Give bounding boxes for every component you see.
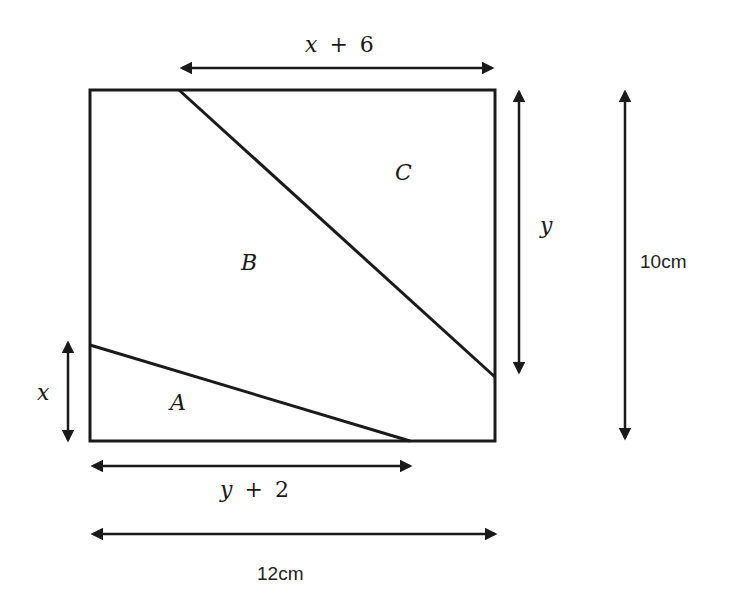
right-inner-dimension-label: y — [539, 213, 553, 238]
outer-rectangle — [90, 90, 495, 441]
top-dimension-label: x + 6 — [305, 32, 374, 57]
bottom-inner-dimension-label: y + 2 — [219, 477, 289, 502]
bottom-outer-dimension-label: 12cm — [257, 563, 303, 584]
region-label-b: B — [240, 250, 257, 275]
region-label-a: A — [168, 390, 186, 415]
line-a-b-boundary — [90, 345, 410, 441]
left-dimension-label: x — [37, 380, 50, 405]
right-outer-dimension-label: 10cm — [640, 251, 686, 272]
diagram-canvas: A B C x + 6 y 10cm x y + 2 12cm — [0, 0, 740, 603]
region-label-c: C — [395, 160, 412, 185]
line-b-c-boundary — [179, 90, 495, 377]
